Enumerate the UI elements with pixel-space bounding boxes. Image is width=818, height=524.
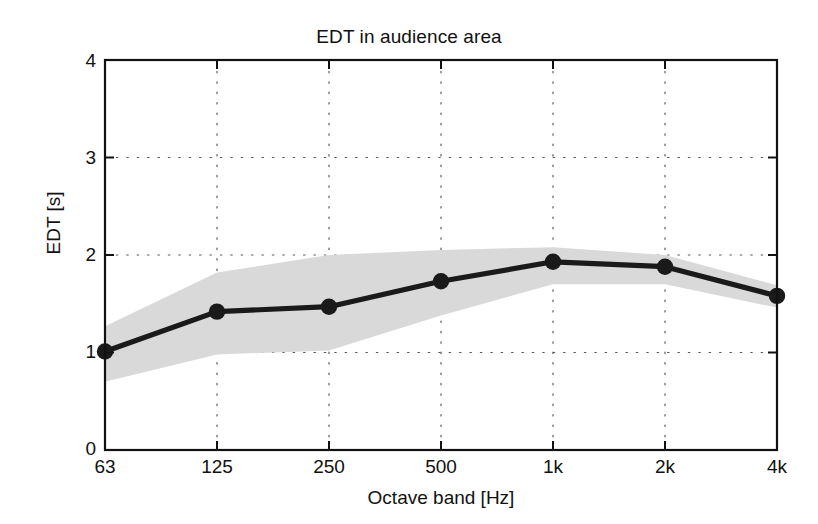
data-point-2k (657, 259, 673, 275)
data-point-1k (545, 254, 561, 270)
data-point-250 (321, 299, 337, 315)
plot-canvas (0, 0, 818, 524)
data-point-500 (433, 273, 449, 289)
chart-figure: EDT in audience area EDT [s] Octave band… (0, 0, 818, 524)
data-point-125 (209, 303, 225, 319)
